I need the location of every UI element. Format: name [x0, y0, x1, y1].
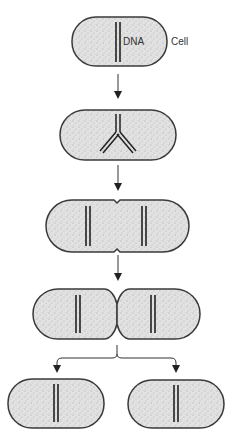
- arrow-down-icon: [114, 255, 122, 281]
- dna-label: DNA: [123, 37, 144, 47]
- arrow-down-icon: [114, 165, 122, 191]
- stage-3-elongation: [46, 200, 189, 252]
- stage-5-daughter-cell-right: [128, 380, 224, 428]
- cell-body: [128, 380, 224, 428]
- arrow-down-icon: [114, 74, 122, 99]
- arrow-down-icon: [172, 365, 180, 373]
- stage-5-daughter-cell-left: [8, 379, 104, 428]
- stage-2-replication: [60, 110, 176, 160]
- cell-body: [46, 200, 189, 252]
- stage-1-parent-cell: [72, 17, 167, 66]
- stage-4-septum: [33, 289, 200, 339]
- cell-label: Cell: [171, 37, 188, 47]
- binary-fission-diagram: [0, 0, 236, 441]
- cell-body-right: [117, 289, 200, 339]
- cell-body: [8, 379, 104, 428]
- arrow-down-icon: [53, 365, 61, 373]
- split-arrows-icon: [57, 345, 176, 366]
- cell-body-left: [33, 289, 117, 339]
